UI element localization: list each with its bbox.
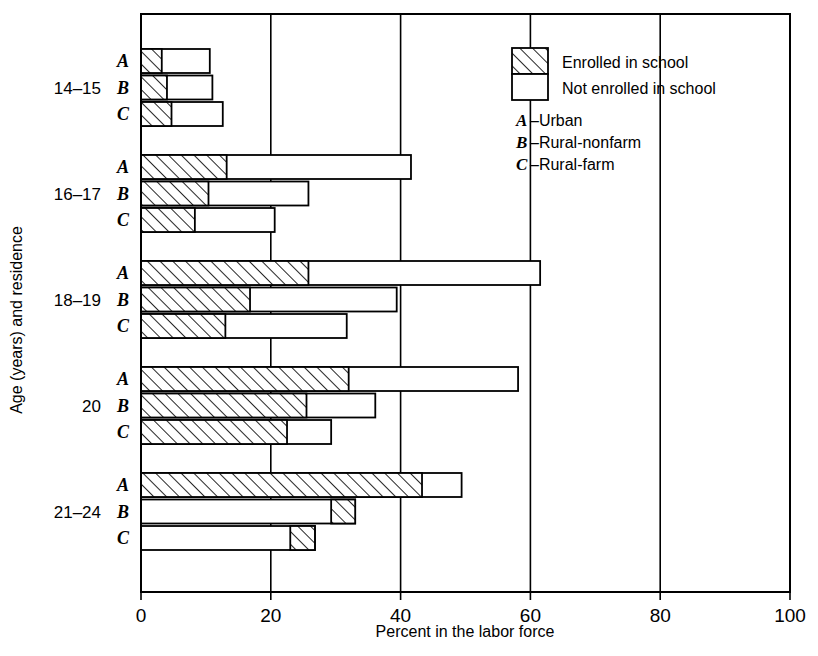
bar-segment-enrolled: [141, 473, 422, 497]
bar-segment-enrolled: [141, 367, 349, 391]
legend-key-letter-a: A: [515, 111, 527, 130]
bar-segment-enrolled: [141, 314, 225, 338]
bar-segment-not-enrolled: [141, 500, 355, 524]
x-tick-label: 80: [650, 605, 671, 626]
residence-label-c: C: [117, 316, 130, 336]
residence-label-c: C: [117, 528, 130, 548]
bar-segment-enrolled: [290, 526, 315, 550]
residence-label-a: A: [116, 369, 129, 389]
bar-segment-enrolled: [141, 76, 167, 100]
bar-segment-enrolled: [141, 155, 227, 179]
legend-key-label-a: –Urban: [530, 112, 582, 129]
bar-segment-enrolled: [141, 102, 172, 126]
bar-segment-enrolled: [141, 394, 306, 418]
residence-label-c: C: [117, 210, 130, 230]
legend-label-not-enrolled: Not enrolled in school: [562, 80, 716, 97]
age-group-label: 20: [82, 397, 101, 416]
y-axis-title: Age (years) and residence: [8, 226, 25, 414]
bar-segment-enrolled: [141, 182, 208, 206]
age-group-label: 18–19: [54, 291, 101, 310]
residence-label-a: A: [116, 475, 129, 495]
residence-label-b: B: [116, 184, 129, 204]
bar-segment-enrolled: [141, 288, 250, 312]
residence-label-b: B: [116, 290, 129, 310]
bar-segment-enrolled: [141, 261, 308, 285]
bars-layer: [141, 49, 540, 550]
x-tick-label: 20: [260, 605, 281, 626]
age-group-label: 14–15: [54, 79, 101, 98]
chart-legend: Enrolled in schoolNot enrolled in school…: [512, 48, 716, 174]
x-axis-tick-labels: 020406080100: [136, 592, 806, 626]
bar-segment-enrolled: [141, 208, 195, 232]
age-group-label: 16–17: [54, 185, 101, 204]
legend-key-label-c: –Rural-farm: [530, 156, 614, 173]
legend-swatch-not-enrolled: [512, 74, 548, 100]
residence-label-c: C: [117, 422, 130, 442]
age-group-label: 21–24: [54, 503, 101, 522]
legend-swatch-enrolled: [512, 48, 548, 74]
x-tick-label: 100: [774, 605, 806, 626]
residence-label-a: A: [116, 157, 129, 177]
residence-label-a: A: [116, 51, 129, 71]
chart-figure: 020406080100 ABC14–15ABC16–17ABC18–19ABC…: [0, 0, 818, 656]
legend-key-letter-b: B: [515, 133, 527, 152]
bar-segment-enrolled: [141, 420, 287, 444]
bar-segment-not-enrolled: [141, 526, 315, 550]
legend-key-label-b: –Rural-nonfarm: [530, 134, 641, 151]
residence-label-c: C: [117, 104, 130, 124]
residence-label-b: B: [116, 78, 129, 98]
chart-canvas: 020406080100 ABC14–15ABC16–17ABC18–19ABC…: [0, 0, 818, 656]
x-axis-title: Percent in the labor force: [376, 623, 555, 640]
bar-segment-enrolled: [141, 49, 162, 73]
residence-label-a: A: [116, 263, 129, 283]
bar-segment-enrolled: [331, 500, 355, 524]
legend-label-enrolled: Enrolled in school: [562, 54, 688, 71]
x-tick-label: 0: [136, 605, 147, 626]
residence-label-b: B: [116, 502, 129, 522]
residence-label-b: B: [116, 396, 129, 416]
legend-key-letter-c: C: [516, 155, 528, 174]
y-axis-group-labels: ABC14–15ABC16–17ABC18–19ABC20ABC21–24: [54, 51, 130, 548]
